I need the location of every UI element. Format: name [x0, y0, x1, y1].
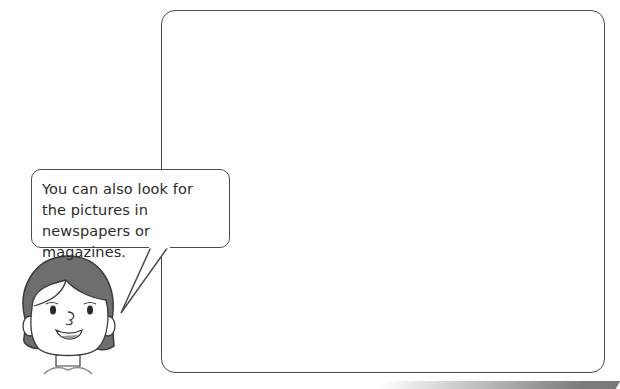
girl-character-icon: [8, 250, 128, 380]
speech-bubble: You can also look for the pictures in ne…: [31, 169, 230, 248]
page-edge-shadow: [378, 381, 620, 389]
speech-bubble-text: You can also look for the pictures in ne…: [42, 179, 219, 263]
